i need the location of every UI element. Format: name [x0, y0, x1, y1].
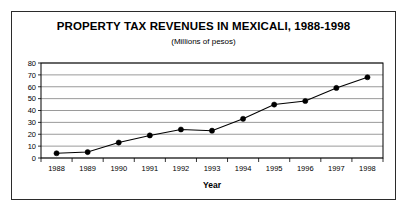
x-tick-label: 1988: [48, 164, 65, 173]
plot-area: 01020304050607080 1988198919901991199219…: [12, 12, 397, 201]
y-tick-label: 20: [28, 130, 36, 139]
y-tick-label: 30: [28, 118, 36, 127]
data-line-series: [57, 77, 368, 153]
x-tick-label: 1995: [266, 164, 283, 173]
data-point-marker: 1995: 45: [272, 102, 277, 107]
data-point-marker: 1989: 5: [85, 149, 90, 154]
data-point-marker: 1988: 4: [54, 151, 59, 156]
x-tick-label: 1996: [297, 164, 314, 173]
y-tick-label: 70: [28, 71, 36, 80]
y-tick-label: 40: [28, 106, 36, 115]
y-tick-label: 80: [28, 59, 36, 68]
data-point-marker: 1992: 24: [178, 127, 183, 132]
data-point-marker: 1991: 19: [147, 133, 152, 138]
x-tick-label: 1997: [328, 164, 345, 173]
x-tick-label: 1992: [173, 164, 190, 173]
y-tick-label: 50: [28, 94, 36, 103]
y-axis-tick-labels: 01020304050607080: [28, 59, 36, 163]
data-point-marker: 1993: 23: [209, 128, 214, 133]
x-axis-title: Year: [203, 180, 222, 190]
x-tick-label: 1993: [204, 164, 221, 173]
y-tick-label: 10: [28, 142, 36, 151]
data-point-marker: 1996: 48: [303, 98, 308, 103]
x-axis-tick-marks: [41, 158, 383, 162]
x-tick-label: 1998: [359, 164, 376, 173]
x-tick-label: 1991: [141, 164, 158, 173]
data-point-marker: 1998: 68: [365, 75, 370, 80]
x-axis-tick-labels: 1988198919901991199219931994199519961997…: [48, 164, 376, 173]
line-chart-svg: 01020304050607080 1988198919901991199219…: [12, 12, 397, 201]
y-tick-label: 60: [28, 83, 36, 92]
data-point-marker: 1990: 13: [116, 140, 121, 145]
chart-figure-frame: PROPERTY TAX REVENUES IN MEXICALI, 1988-…: [11, 11, 396, 200]
x-tick-label: 1989: [79, 164, 96, 173]
x-tick-label: 1994: [235, 164, 252, 173]
gridlines: [38, 63, 383, 158]
data-point-marker: 1997: 59: [334, 85, 339, 90]
x-tick-label: 1990: [110, 164, 127, 173]
y-tick-label: 0: [32, 154, 36, 163]
data-point-marker: 1994: 33: [240, 116, 245, 121]
